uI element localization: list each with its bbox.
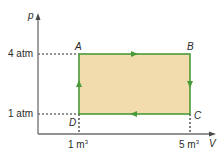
tick-1atm: 1 atm	[8, 109, 33, 119]
tick-1m3-exp: 3	[85, 139, 88, 145]
corner-d-label: D	[69, 118, 76, 128]
v-axis-arrow-icon	[209, 132, 216, 137]
p-axis-arrow-icon	[36, 13, 41, 20]
pv-diagram	[0, 0, 223, 154]
p-axis-label: p	[28, 11, 34, 21]
work-area-fill	[79, 54, 190, 114]
tick-4atm: 4 atm	[8, 49, 33, 59]
tick-5m3-exp: 3	[196, 139, 199, 145]
v-axis-label: V	[209, 139, 216, 149]
tick-5m3-base: 5 m	[179, 139, 196, 150]
tick-1m3-base: 1 m	[68, 139, 85, 150]
corner-c-label: C	[194, 111, 201, 121]
corner-b-label: B	[187, 42, 194, 52]
corner-a-label: A	[75, 42, 82, 52]
tick-1m3: 1 m3	[68, 140, 88, 150]
tick-5m3: 5 m3	[179, 140, 199, 150]
